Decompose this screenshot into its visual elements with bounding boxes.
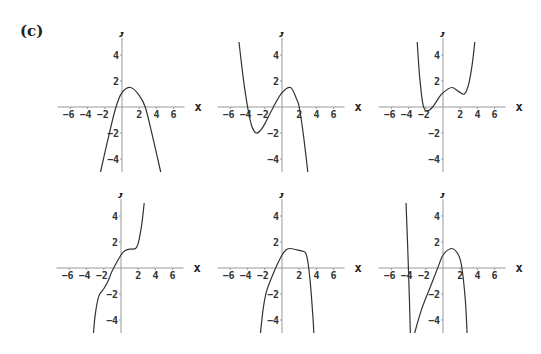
x-tick-label: 4 bbox=[152, 270, 158, 281]
plot-1: −6−4−224642−2−4xy bbox=[50, 32, 210, 182]
x-axis-label: x bbox=[355, 100, 362, 114]
x-tick-label: 4 bbox=[153, 109, 159, 120]
plot-6: −6−4−224642−2−4xy bbox=[371, 193, 531, 343]
x-tick-label: 4 bbox=[474, 270, 480, 281]
x-axis-label: x bbox=[355, 261, 362, 275]
x-tick-label: 6 bbox=[492, 109, 498, 120]
y-axis-label: y bbox=[278, 193, 285, 198]
x-tick-label: −2 bbox=[96, 270, 108, 281]
y-tick-label: 2 bbox=[434, 76, 440, 87]
x-axis-label: x bbox=[516, 261, 523, 275]
x-tick-label: −6 bbox=[383, 270, 395, 281]
y-tick-label: −2 bbox=[428, 289, 440, 300]
y-tick-label: 4 bbox=[434, 211, 440, 222]
y-tick-label: −4 bbox=[267, 154, 279, 165]
x-tick-label: −4 bbox=[80, 109, 92, 120]
x-tick-label: −6 bbox=[383, 109, 395, 120]
y-tick-label: −4 bbox=[107, 154, 119, 165]
y-tick-label: 4 bbox=[434, 50, 440, 61]
y-tick-label: −4 bbox=[428, 315, 440, 326]
x-tick-label: 6 bbox=[331, 270, 337, 281]
x-tick-label: −4 bbox=[401, 109, 413, 120]
x-tick-label: −6 bbox=[222, 109, 234, 120]
x-tick-label: −6 bbox=[62, 109, 74, 120]
x-axis-label: x bbox=[195, 100, 202, 114]
y-tick-label: 2 bbox=[112, 237, 118, 248]
x-tick-label: 2 bbox=[457, 109, 463, 120]
y-axis-label: y bbox=[439, 193, 446, 198]
y-tick-label: −4 bbox=[106, 315, 118, 326]
y-tick-label: 2 bbox=[113, 76, 119, 87]
x-tick-label: −2 bbox=[97, 109, 109, 120]
y-tick-label: 4 bbox=[113, 50, 119, 61]
x-tick-label: −2 bbox=[418, 270, 430, 281]
y-axis-label: y bbox=[118, 32, 125, 37]
x-tick-label: 4 bbox=[313, 109, 319, 120]
y-tick-label: 2 bbox=[434, 237, 440, 248]
x-tick-label: −4 bbox=[240, 270, 252, 281]
x-tick-label: 6 bbox=[170, 270, 176, 281]
curve-line bbox=[417, 42, 475, 111]
curve-line bbox=[415, 249, 467, 334]
x-tick-label: −2 bbox=[257, 270, 269, 281]
plot-3: −6−4−224642−2−4xy bbox=[371, 32, 531, 182]
y-axis-label: y bbox=[278, 32, 285, 37]
plot-2: −6−4−224642−2−4xy bbox=[210, 32, 370, 182]
y-tick-label: 2 bbox=[273, 237, 279, 248]
y-tick-label: 4 bbox=[273, 211, 279, 222]
x-tick-label: 6 bbox=[171, 109, 177, 120]
y-tick-label: −2 bbox=[428, 128, 440, 139]
x-tick-label: 6 bbox=[492, 270, 498, 281]
x-tick-label: 2 bbox=[296, 270, 302, 281]
x-axis-label: x bbox=[516, 100, 523, 114]
y-tick-label: −4 bbox=[267, 315, 279, 326]
x-tick-label: 4 bbox=[313, 270, 319, 281]
y-tick-label: 2 bbox=[273, 76, 279, 87]
x-tick-label: 2 bbox=[136, 109, 142, 120]
plot-5: −6−4−224642−2−4xy bbox=[210, 193, 370, 343]
panel-label: (c) bbox=[20, 22, 43, 40]
y-tick-label: 4 bbox=[112, 211, 118, 222]
y-axis-label: y bbox=[439, 32, 446, 37]
y-axis-label: y bbox=[117, 193, 124, 198]
x-tick-label: −4 bbox=[401, 270, 413, 281]
y-tick-label: 4 bbox=[273, 50, 279, 61]
y-tick-label: −4 bbox=[428, 154, 440, 165]
x-tick-label: 6 bbox=[331, 109, 337, 120]
x-tick-label: 2 bbox=[135, 270, 141, 281]
plot-4: −6−4−224642−2−4xy bbox=[49, 193, 209, 343]
y-tick-label: −2 bbox=[267, 289, 279, 300]
x-axis-label: x bbox=[194, 261, 201, 275]
y-tick-label: −2 bbox=[267, 128, 279, 139]
y-tick-label: −2 bbox=[106, 289, 118, 300]
x-tick-label: −4 bbox=[79, 270, 91, 281]
x-tick-label: −6 bbox=[222, 270, 234, 281]
x-tick-label: −6 bbox=[61, 270, 73, 281]
x-tick-label: 4 bbox=[474, 109, 480, 120]
